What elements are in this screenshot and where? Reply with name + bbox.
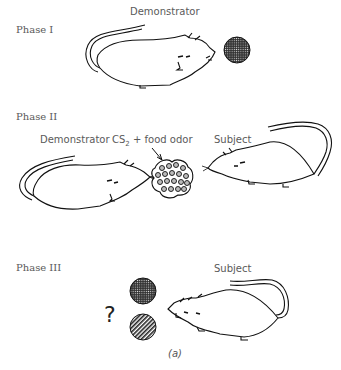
rat-icon — [86, 25, 215, 88]
food-pellet-striped-icon — [130, 314, 156, 340]
food-pellet-dotted-icon — [224, 37, 250, 63]
food-pellet-dotted-icon — [130, 278, 156, 304]
arrow-icon — [152, 148, 162, 160]
rat-icon — [20, 156, 160, 209]
odor-cluster-icon — [152, 160, 193, 198]
figure-drawing — [0, 0, 341, 370]
rat-icon — [168, 280, 288, 340]
rat-icon — [202, 122, 332, 187]
